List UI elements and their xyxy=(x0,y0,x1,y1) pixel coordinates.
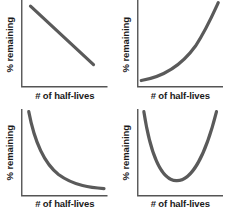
x-axis-label: # of half-lives xyxy=(35,91,94,101)
x-axis-label-container: # of half-lives xyxy=(0,197,116,217)
chart-panel-exponential-decay: % remaining # of half-lives xyxy=(0,109,116,218)
x-axis-label: # of half-lives xyxy=(35,199,94,209)
chart-panel-linear-decreasing: % remaining # of half-lives xyxy=(0,0,116,109)
y-axis-label: % remaining xyxy=(121,125,131,180)
chart-panel-parabola-u: % remaining # of half-lives xyxy=(116,109,232,218)
y-axis-label: % remaining xyxy=(5,125,15,180)
plot-svg xyxy=(20,109,108,198)
y-axis-label: % remaining xyxy=(121,17,131,72)
axis-lines xyxy=(137,0,223,87)
y-axis-label-container: % remaining xyxy=(0,109,20,198)
chart-grid: % remaining # of half-lives % remaining xyxy=(0,0,231,217)
data-curve xyxy=(143,111,216,180)
panel-body: % remaining xyxy=(0,109,116,198)
plot-svg xyxy=(20,0,108,89)
axis-lines xyxy=(137,109,223,196)
y-axis-label: % remaining xyxy=(5,17,15,72)
x-axis-label: # of half-lives xyxy=(151,91,210,101)
x-axis-label-container: # of half-lives xyxy=(116,89,232,109)
panel-body: % remaining xyxy=(116,0,232,89)
plot-area-parabola-u xyxy=(136,109,224,198)
y-axis-label-container: % remaining xyxy=(116,109,136,198)
y-axis-label-container: % remaining xyxy=(116,0,136,89)
x-axis-label-container: # of half-lives xyxy=(0,89,116,109)
data-curve xyxy=(29,111,104,188)
plot-area-exponential-growth xyxy=(136,0,224,89)
data-curve xyxy=(141,3,218,81)
y-axis-label-container: % remaining xyxy=(0,0,20,89)
plot-area-exponential-decay xyxy=(20,109,108,198)
plot-area-linear-decreasing xyxy=(20,0,108,89)
data-curve xyxy=(31,6,94,64)
axis-lines xyxy=(22,109,108,196)
panel-body: % remaining xyxy=(0,0,116,89)
panel-body: % remaining xyxy=(116,109,232,198)
axis-lines xyxy=(22,0,108,87)
chart-panel-exponential-growth: % remaining # of half-lives xyxy=(116,0,232,109)
x-axis-label-container: # of half-lives xyxy=(116,197,232,217)
plot-svg xyxy=(136,0,224,89)
x-axis-label: # of half-lives xyxy=(151,199,210,209)
plot-svg xyxy=(136,109,224,198)
